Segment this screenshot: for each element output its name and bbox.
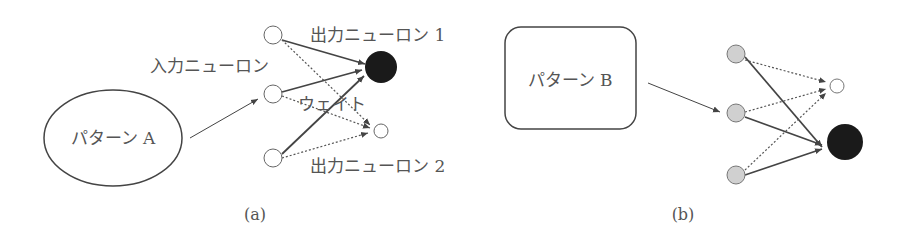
panel-b-caption: (b) [672, 205, 695, 224]
weight-weak [745, 89, 826, 112]
panel-a: パターン A 出力ニューロン 1 入力ニューロン ウェイト 出力ニューロン 2 … [44, 25, 445, 224]
input-neuron-label: 入力ニューロン [150, 56, 269, 76]
input-neuron [264, 85, 282, 103]
neural-pattern-diagram: パターン A 出力ニューロン 1 入力ニューロン ウェイト 出力ニューロン 2 … [0, 0, 905, 243]
input-neuron [727, 166, 745, 184]
pattern-a-label: パターン A [71, 128, 156, 148]
input-neuron [264, 26, 282, 44]
input-neuron [727, 104, 745, 122]
output-neuron-1-label: 出力ニューロン 1 [310, 25, 445, 45]
output-neuron-1-active [365, 51, 397, 83]
output-neuron-1 [830, 79, 844, 93]
input-neuron [264, 149, 282, 167]
pattern-b-label: パターン B [528, 70, 613, 90]
pattern-a-arrow [190, 99, 258, 138]
panel-a-caption: (a) [244, 205, 266, 224]
input-neuron [727, 45, 745, 63]
weight-strong [745, 149, 822, 175]
output-neuron-2-active [827, 124, 863, 160]
output-neuron-2-label: 出力ニューロン 2 [310, 156, 445, 176]
panel-b: パターン B (b) [505, 27, 863, 224]
weight-label: ウェイト [298, 94, 366, 114]
pattern-b-arrow [648, 83, 720, 112]
weight-strong [745, 117, 822, 145]
weight-weak [282, 133, 368, 158]
output-neuron-2 [374, 124, 388, 138]
